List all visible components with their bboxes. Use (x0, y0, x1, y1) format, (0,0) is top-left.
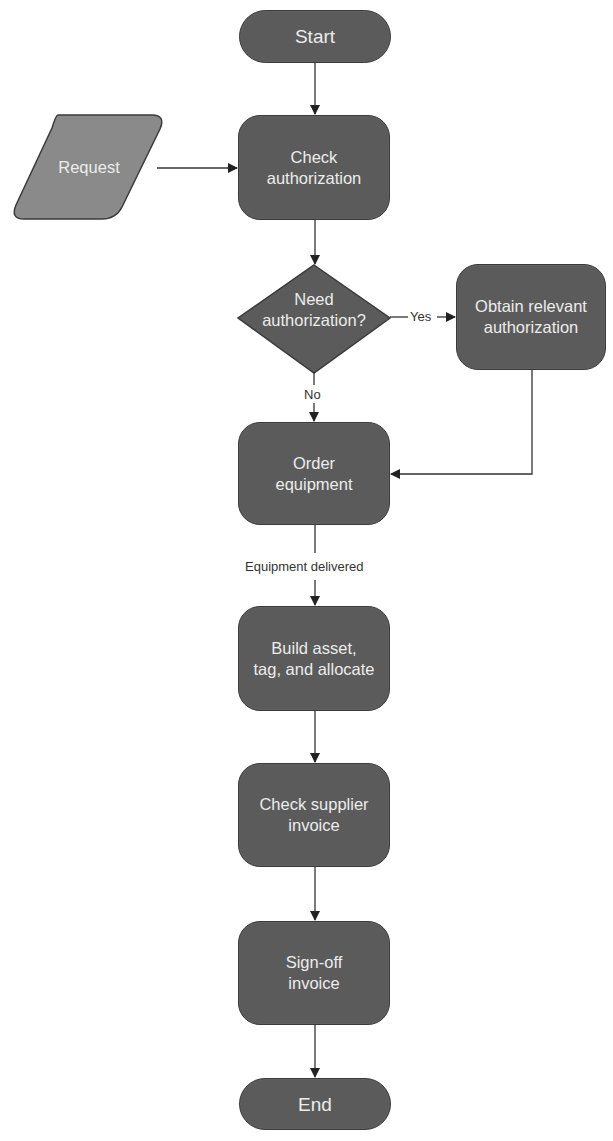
order-equipment-step: Order equipment (238, 422, 390, 525)
start-terminal: Start (239, 10, 391, 63)
edge-label-equipment-delivered: Equipment delivered (245, 559, 364, 574)
end-terminal: End (239, 1078, 391, 1130)
edge-obtain-to-order (391, 370, 532, 474)
end-label: End (298, 1094, 332, 1115)
signoff-invoice-step: Sign-off invoice (238, 921, 390, 1025)
start-label: Start (295, 26, 335, 47)
need-authorization-decision: Need authorization? (238, 280, 390, 340)
order-equipment-label: Order equipment (275, 453, 352, 495)
obtain-authorization-label: Obtain relevant authorization (475, 296, 587, 338)
request-input: Request (14, 115, 164, 220)
check-authorization-step: Check authorization (238, 115, 390, 220)
edge-label-no: No (304, 387, 321, 402)
check-supplier-invoice-step: Check supplier invoice (238, 763, 390, 867)
need-authorization-label: Need authorization? (262, 289, 366, 331)
check-authorization-label: Check authorization (267, 147, 361, 189)
obtain-authorization-step: Obtain relevant authorization (456, 264, 606, 370)
edge-label-yes: Yes (410, 309, 431, 324)
check-supplier-invoice-label: Check supplier invoice (259, 794, 368, 836)
build-asset-step: Build asset, tag, and allocate (238, 606, 390, 711)
request-label: Request (58, 157, 119, 178)
build-asset-label: Build asset, tag, and allocate (253, 638, 374, 680)
signoff-invoice-label: Sign-off invoice (286, 952, 343, 994)
